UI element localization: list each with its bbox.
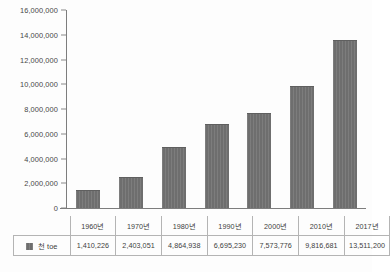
bars-container xyxy=(67,10,366,208)
x-axis-line xyxy=(60,208,366,209)
bar-slot xyxy=(238,10,281,208)
bar xyxy=(205,124,229,208)
table-cell-value: 4,864,938 xyxy=(161,236,207,256)
legend-label: 천 toe xyxy=(38,242,58,251)
bar xyxy=(162,147,186,208)
table-column-header: 2017년 xyxy=(344,216,390,236)
table-column-header: 1960년 xyxy=(70,216,116,236)
y-axis-tick-label: 10,000,000 xyxy=(20,80,58,89)
bar xyxy=(247,113,271,208)
bar xyxy=(333,40,357,208)
bar-slot xyxy=(67,10,110,208)
plot-area: 02,000,0004,000,0006,000,0008,000,00010,… xyxy=(0,6,372,218)
table-corner-cell xyxy=(14,216,71,236)
bar xyxy=(76,190,100,208)
bar-slot xyxy=(323,10,366,208)
table-column-header: 2000년 xyxy=(253,216,299,236)
y-axis-tick-label: 6,000,000 xyxy=(24,129,58,138)
table-column-header: 1980년 xyxy=(161,216,207,236)
table-column-header: 1970년 xyxy=(116,216,162,236)
data-table: 1960년1970년1980년1990년2000년2010년2017년 천 to… xyxy=(13,216,390,256)
table-column-header: 1990년 xyxy=(207,216,253,236)
bar-slot xyxy=(152,10,195,208)
y-axis-tick-label: 16,000,000 xyxy=(20,6,58,15)
table-cell-value: 6,695,230 xyxy=(207,236,253,256)
table-cell-value: 9,816,681 xyxy=(299,236,345,256)
table-row: 천 toe 1,410,2262,403,0514,864,9386,695,2… xyxy=(14,236,390,256)
table-column-header: 2010년 xyxy=(299,216,345,236)
y-axis-tick-label: 0 xyxy=(54,204,58,213)
y-axis-tick-label: 8,000,000 xyxy=(24,105,58,114)
table-cell-value: 13,511,200 xyxy=(344,236,390,256)
table-cell-value: 1,410,226 xyxy=(70,236,116,256)
bar-slot xyxy=(281,10,324,208)
legend-swatch-icon xyxy=(26,243,33,250)
bar xyxy=(290,86,314,208)
y-axis-tick-marks xyxy=(59,6,66,218)
table-header-row: 1960년1970년1980년1990년2000년2010년2017년 xyxy=(14,216,390,236)
y-axis-tick-label: 12,000,000 xyxy=(20,55,58,64)
y-axis-tick-label: 14,000,000 xyxy=(20,30,58,39)
y-axis-tick-label: 2,000,000 xyxy=(24,179,58,188)
bar-slot xyxy=(195,10,238,208)
bar xyxy=(119,177,143,208)
y-axis-tick-labels: 02,000,0004,000,0006,000,0008,000,00010,… xyxy=(0,6,58,218)
table-cell-value: 7,573,776 xyxy=(253,236,299,256)
y-axis-tick-label: 4,000,000 xyxy=(24,154,58,163)
bar-slot xyxy=(110,10,153,208)
table-cell-value: 2,403,051 xyxy=(116,236,162,256)
legend-cell: 천 toe xyxy=(14,236,71,256)
